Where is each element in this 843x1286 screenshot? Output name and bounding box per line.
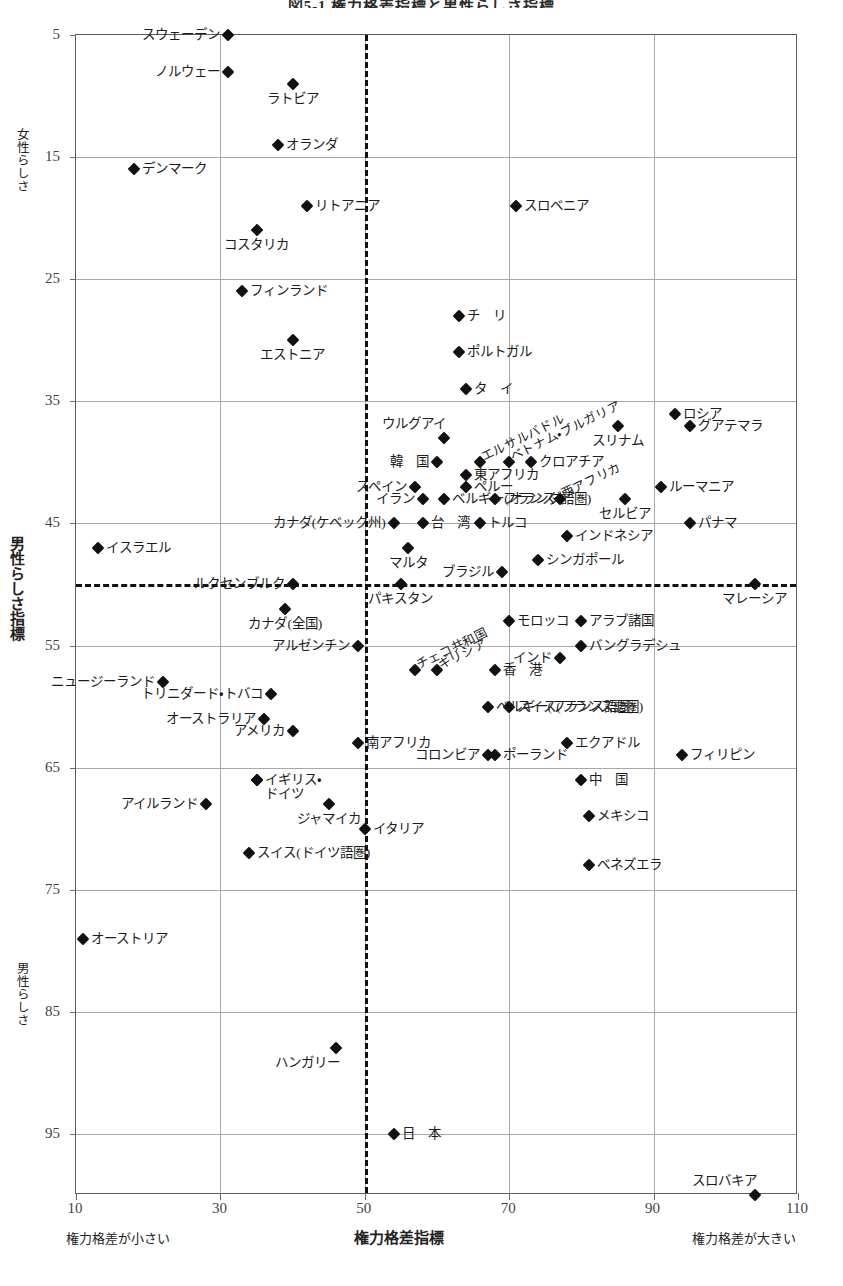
data-point-marker[interactable] xyxy=(286,77,299,90)
data-point-marker[interactable] xyxy=(272,139,285,152)
data-point-marker[interactable] xyxy=(683,517,696,530)
data-point-marker[interactable] xyxy=(279,603,292,616)
y-axis-title: 男性らしさ指標 xyxy=(8,536,24,641)
x-axis-tick-mark xyxy=(365,1193,366,1200)
data-point-marker[interactable] xyxy=(286,578,299,591)
data-point-marker[interactable] xyxy=(77,932,90,945)
data-point-marker[interactable] xyxy=(654,480,667,493)
data-point-marker[interactable] xyxy=(322,798,335,811)
data-point-marker[interactable] xyxy=(582,810,595,823)
gridline-horizontal xyxy=(76,279,796,280)
data-point-label: スイス(ドイツ語圏) xyxy=(257,846,370,860)
data-point-marker[interactable] xyxy=(402,541,415,554)
data-point-label: イタリア xyxy=(373,822,424,836)
data-point-label: ラトビア xyxy=(267,92,319,106)
gridline-horizontal xyxy=(76,1012,796,1013)
data-point-label: モロッコ xyxy=(517,614,569,628)
y-axis-tick-mark xyxy=(70,401,76,402)
y-axis-tick-label: 55 xyxy=(20,636,60,653)
data-point-marker[interactable] xyxy=(452,309,465,322)
data-point-marker[interactable] xyxy=(221,29,234,42)
data-point-marker[interactable] xyxy=(265,688,278,701)
x-axis-tick-mark xyxy=(220,1193,221,1200)
data-point-marker[interactable] xyxy=(416,517,429,530)
data-point-marker[interactable] xyxy=(351,639,364,652)
data-point-marker[interactable] xyxy=(395,578,408,591)
data-point-marker[interactable] xyxy=(460,383,473,396)
data-point-marker[interactable] xyxy=(510,200,523,213)
data-point-label: アイルランド xyxy=(121,798,198,812)
data-point-label: スロベニア xyxy=(524,199,589,213)
data-point-label: チ リ xyxy=(467,309,506,323)
data-point-label: 香 港 xyxy=(503,663,542,677)
data-point-marker[interactable] xyxy=(575,615,588,628)
x-axis-caption-low: 権力格差が小さい xyxy=(66,1228,170,1247)
data-point-marker[interactable] xyxy=(503,615,516,628)
data-point-marker[interactable] xyxy=(748,578,761,591)
chart-page: 図5-1 権力格差指標と男性らしさ指標 スウェーデンノルウェーラトビアオランダデ… xyxy=(0,0,843,1286)
data-point-marker[interactable] xyxy=(200,798,213,811)
data-point-label: 日 本 xyxy=(402,1127,441,1141)
data-point-label: イスラエル xyxy=(106,541,171,555)
data-point-label: 韓 国 xyxy=(390,456,429,470)
y-axis-tick-label: 5 xyxy=(20,26,60,43)
data-point-marker[interactable] xyxy=(127,163,140,176)
data-point-marker[interactable] xyxy=(611,419,624,432)
data-point-marker[interactable] xyxy=(221,65,234,78)
data-point-marker[interactable] xyxy=(286,334,299,347)
x-axis-tick-label: 50 xyxy=(342,1200,386,1217)
data-point-marker[interactable] xyxy=(676,749,689,762)
y-axis-tick-mark xyxy=(70,890,76,891)
data-point-marker[interactable] xyxy=(236,285,249,298)
data-point-marker[interactable] xyxy=(438,493,451,506)
data-point-label: カナダ(全国) xyxy=(248,617,322,631)
data-point-marker[interactable] xyxy=(250,773,263,786)
data-point-label: マレーシア xyxy=(722,592,787,606)
data-point-label: オランダ xyxy=(286,138,338,152)
data-point-label: ベルギー(フランス語圏) xyxy=(496,700,635,714)
data-point-marker[interactable] xyxy=(286,725,299,738)
data-point-marker[interactable] xyxy=(387,1128,400,1141)
x-axis-tick-mark xyxy=(76,1193,77,1200)
data-point-marker[interactable] xyxy=(416,493,429,506)
gridline-horizontal xyxy=(76,890,796,891)
data-point-marker[interactable] xyxy=(748,1189,761,1202)
data-point-marker[interactable] xyxy=(243,847,256,860)
gridline-horizontal xyxy=(76,157,796,158)
data-point-marker[interactable] xyxy=(496,566,509,579)
data-point-marker[interactable] xyxy=(330,1042,343,1055)
data-point-label: ルクセンブルク xyxy=(194,578,285,592)
data-point-marker[interactable] xyxy=(250,224,263,237)
data-point-marker[interactable] xyxy=(460,468,473,481)
data-point-marker[interactable] xyxy=(553,651,566,664)
data-point-label: ポーランド xyxy=(503,749,568,763)
data-point-marker[interactable] xyxy=(438,432,451,445)
data-point-marker[interactable] xyxy=(618,493,631,506)
x-axis-tick-mark xyxy=(509,1193,510,1200)
data-point-marker[interactable] xyxy=(683,419,696,432)
x-axis-tick-label: 30 xyxy=(197,1200,241,1217)
data-point-label: ルーマニア xyxy=(669,480,734,494)
data-point-marker[interactable] xyxy=(488,664,501,677)
data-point-marker[interactable] xyxy=(532,554,545,567)
y-axis-tick-mark xyxy=(70,768,76,769)
gridline-vertical xyxy=(220,35,221,1193)
data-point-marker[interactable] xyxy=(351,737,364,750)
data-point-marker[interactable] xyxy=(91,541,104,554)
data-point-marker[interactable] xyxy=(561,529,574,542)
data-point-label: スロバキア xyxy=(692,1174,757,1188)
data-point-marker[interactable] xyxy=(474,517,487,530)
data-point-marker[interactable] xyxy=(669,407,682,420)
data-point-marker[interactable] xyxy=(452,346,465,359)
data-point-label: ノルウェー xyxy=(155,65,220,79)
data-point-label: ジャマイカ xyxy=(297,812,361,826)
data-point-marker[interactable] xyxy=(431,456,444,469)
data-point-marker[interactable] xyxy=(582,859,595,872)
page-title: 図5-1 権力格差指標と男性らしさ指標 xyxy=(0,0,843,8)
data-point-marker[interactable] xyxy=(301,200,314,213)
data-point-marker[interactable] xyxy=(575,773,588,786)
data-point-label: エクアドル xyxy=(575,736,640,750)
data-point-marker[interactable] xyxy=(481,700,494,713)
data-point-marker[interactable] xyxy=(387,517,400,530)
data-point-marker[interactable] xyxy=(575,639,588,652)
